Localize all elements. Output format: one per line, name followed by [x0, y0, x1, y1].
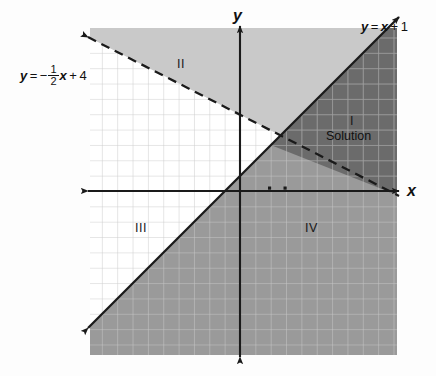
line-label-solid: y = x + 1 — [361, 20, 408, 33]
y-axis-label: y — [233, 8, 242, 24]
quadrant-label-IV: IV — [305, 222, 318, 235]
line-label-solid-eq: = — [368, 20, 381, 33]
quadrant-label-I: I — [350, 115, 354, 128]
solution-label: Solution — [326, 130, 371, 143]
inequality-graph-figure: y x y = x + 1 y = − 1 2 x + 4 II III IV … — [0, 0, 436, 376]
x-axis-label: x — [407, 183, 416, 199]
line-label-solid-const: 1 — [401, 20, 408, 33]
line-label-dashed-const: 4 — [79, 69, 86, 82]
quadrant-label-III: III — [135, 222, 147, 235]
graph-canvas — [0, 0, 436, 376]
line-label-solid-y: y — [361, 20, 368, 33]
line-label-dashed-plus: + — [67, 69, 80, 82]
fraction-numerator: 1 — [48, 64, 58, 75]
line-label-dashed-y: y — [20, 69, 27, 82]
line-label-solid-plus: + — [388, 20, 401, 33]
line-label-dashed-eq: = — [27, 69, 40, 82]
quadrant-label-II: II — [177, 58, 185, 71]
line-label-solid-x: x — [381, 20, 388, 33]
line-label-dashed: y = − 1 2 x + 4 — [20, 64, 87, 87]
fraction-one-half: 1 2 — [48, 64, 58, 87]
line-label-dashed-x: x — [60, 69, 67, 82]
x-axis-tick — [268, 187, 271, 190]
line-label-dashed-minus: − — [40, 69, 48, 82]
x-axis-tick — [284, 187, 287, 190]
fraction-denominator: 2 — [48, 75, 58, 87]
